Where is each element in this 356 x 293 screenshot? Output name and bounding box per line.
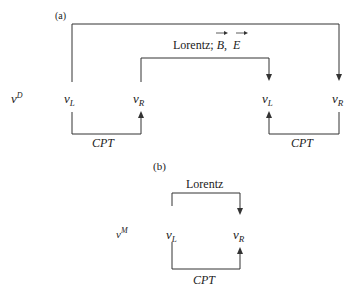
arrow-down-inner	[266, 74, 272, 81]
b-lorentz-label: Lorentz	[186, 178, 223, 190]
arrow-up-cpt-left	[138, 111, 144, 118]
cpt-right-label: CPT	[291, 137, 313, 149]
arrow-down-b	[237, 208, 243, 215]
arrow-up-cpt-right	[266, 111, 272, 118]
b-cpt-line	[172, 242, 240, 269]
lorentz-b-e-label: Lorentz; B, E	[173, 39, 240, 51]
arrow-up-b	[237, 247, 243, 254]
outer-lorentz-line	[72, 24, 339, 82]
cpt-right-line	[269, 112, 339, 134]
nu-l-node-right: νL	[262, 92, 273, 108]
b-cpt-label: CPT	[193, 274, 215, 286]
cpt-left-line	[72, 112, 141, 134]
nu-r-node-right: νR	[332, 92, 343, 108]
inner-lorentz-line	[141, 58, 269, 82]
arrow-down-outer	[336, 74, 342, 81]
nu-dirac-label: νD	[11, 92, 23, 105]
nu-r-node: νR	[133, 92, 144, 108]
part-b-label: (b)	[153, 161, 166, 172]
b-nu-l-node: νL	[166, 228, 177, 244]
part-a-label: (a)	[55, 11, 66, 21]
b-nu-r-node: νR	[233, 228, 244, 244]
nu-majorana-label: νM	[116, 227, 128, 240]
nu-l-node: νL	[64, 92, 75, 108]
cpt-left-label: CPT	[92, 137, 114, 149]
b-lorentz-line	[172, 193, 240, 212]
